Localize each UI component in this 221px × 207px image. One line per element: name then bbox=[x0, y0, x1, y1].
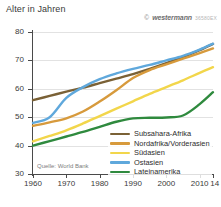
legend-item-label: Lateinamerika bbox=[134, 168, 180, 175]
x-tick-mark bbox=[66, 174, 67, 178]
x-tick-label: 1990 bbox=[124, 180, 142, 188]
chart-legend: Subsahara-AfrikaNordafrika/VorderasienSü… bbox=[108, 128, 212, 178]
brand-logo: westermann bbox=[152, 14, 192, 21]
x-tick-label: 1960 bbox=[24, 180, 42, 188]
legend-swatch-icon bbox=[110, 152, 130, 155]
y-tick-label: 50 bbox=[0, 113, 24, 121]
page-title: Alter in Jahren bbox=[6, 4, 66, 14]
y-tick-label: 60 bbox=[0, 85, 24, 93]
y-tick-label: 30 bbox=[0, 170, 24, 178]
x-tick-mark bbox=[33, 174, 34, 178]
legend-item-label: Nordafrika/Vorderasien bbox=[134, 140, 210, 147]
x-tick-label: 1980 bbox=[91, 180, 109, 188]
y-tick-label: 80 bbox=[0, 28, 24, 36]
y-tick-label: 40 bbox=[0, 142, 24, 150]
legend-item-label: Südasien bbox=[134, 149, 165, 156]
y-tick-label: 70 bbox=[0, 56, 24, 64]
legend-item[interactable]: Nordafrika/Vorderasien bbox=[110, 139, 210, 149]
x-tick-label: 2000 bbox=[157, 180, 175, 188]
x-tick-mark bbox=[100, 174, 101, 178]
series-line-ostasien bbox=[33, 44, 213, 123]
credit-block: © westermann 36580EX bbox=[144, 14, 217, 21]
legend-swatch-icon bbox=[110, 133, 130, 136]
copyright-icon: © bbox=[144, 14, 149, 21]
legend-item-label: Ostasien bbox=[134, 159, 163, 166]
x-tick-label: 2010 bbox=[191, 180, 209, 188]
x-tick-mark bbox=[213, 174, 214, 178]
product-code: 36580EX bbox=[195, 15, 217, 21]
legend-item[interactable]: Lateinamerika bbox=[110, 167, 210, 177]
legend-item[interactable]: Ostasien bbox=[110, 158, 210, 168]
legend-item-label: Subsahara-Afrika bbox=[134, 130, 191, 137]
x-tick-label: 14 bbox=[210, 180, 219, 188]
source-note: Quelle: World Bank bbox=[37, 163, 89, 169]
legend-item[interactable]: Südasien bbox=[110, 148, 210, 158]
legend-swatch-icon bbox=[110, 171, 130, 174]
x-tick-label: 1970 bbox=[57, 180, 75, 188]
legend-item[interactable]: Subsahara-Afrika bbox=[110, 129, 210, 139]
legend-swatch-icon bbox=[110, 161, 130, 164]
chart-figure: Alter in Jahren © westermann 36580EX 304… bbox=[0, 0, 221, 207]
legend-swatch-icon bbox=[110, 142, 130, 145]
